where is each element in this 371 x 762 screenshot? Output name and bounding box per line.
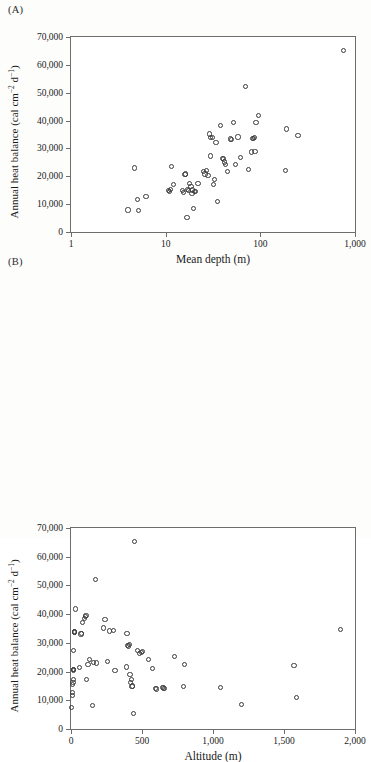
data-point — [131, 711, 136, 716]
data-point — [143, 194, 148, 199]
data-point — [235, 134, 240, 139]
y-axis-tick — [66, 557, 71, 558]
data-point — [94, 660, 99, 665]
y-axis-tick — [66, 204, 71, 205]
y-axis-tick — [66, 643, 71, 644]
y-axis-tick — [66, 585, 71, 586]
data-point — [136, 208, 141, 213]
data-point — [124, 664, 129, 669]
x-axis-tick — [355, 729, 356, 734]
plot-area-b: 010,00020,00030,00040,00050,00060,00070,… — [71, 528, 355, 729]
y-axis-tick-label: 10,000 — [37, 695, 63, 705]
x-axis-tick — [260, 232, 261, 237]
data-point — [90, 703, 95, 708]
y-axis-tick-label: 60,000 — [37, 60, 63, 70]
y-axis-title-a-text: Annual heat balance (cal cm−2 d−1) — [8, 65, 20, 218]
data-point — [102, 617, 107, 622]
data-point — [146, 657, 151, 662]
y-axis-tick-label: 50,000 — [37, 88, 63, 98]
y-axis-tick — [66, 65, 71, 66]
y-axis-tick-label: 0 — [58, 227, 63, 237]
data-point — [184, 215, 189, 220]
data-point — [150, 666, 155, 671]
x-axis-tick-label: 1,000 — [202, 736, 223, 746]
y-axis-tick — [66, 37, 71, 38]
y-axis-tick-label: 70,000 — [37, 32, 63, 42]
x-axis-tick-label: 500 — [135, 736, 149, 746]
data-point — [182, 662, 187, 667]
data-point — [205, 173, 210, 178]
data-point — [112, 668, 117, 673]
y-axis-tick-label: 20,000 — [37, 171, 63, 181]
data-point — [172, 654, 177, 659]
data-point — [124, 631, 129, 636]
data-point — [183, 171, 188, 176]
panel-a: (A) 010,00020,00030,00040,00050,00060,00… — [0, 0, 371, 270]
data-point — [225, 169, 230, 174]
data-point — [181, 684, 186, 689]
x-axis-title-b: Altitude (m) — [71, 750, 355, 762]
data-point — [84, 677, 89, 682]
data-point — [233, 162, 238, 167]
panel-b-label: (B) — [8, 256, 23, 267]
y-axis-tick — [66, 121, 71, 122]
x-axis-tick-label: 2,000 — [344, 736, 365, 746]
data-point — [101, 625, 106, 630]
y-axis-tick-label: 40,000 — [37, 116, 63, 126]
data-point — [193, 189, 198, 194]
data-point — [252, 135, 257, 140]
x-axis-tick-label: 100 — [253, 239, 267, 249]
data-point — [341, 48, 346, 53]
data-point — [111, 628, 116, 633]
x-axis-tick — [71, 232, 72, 237]
x-axis-tick-label: 1,500 — [273, 736, 294, 746]
data-point — [215, 199, 220, 204]
data-point — [169, 164, 174, 169]
x-axis-tick-label: 1 — [69, 239, 74, 249]
y-axis-tick-label: 70,000 — [37, 523, 63, 533]
y-axis-tick — [66, 176, 71, 177]
y-axis-tick-label: 30,000 — [37, 143, 63, 153]
data-point — [246, 167, 251, 172]
y-axis-title-b: Annual heat balance (cal cm−2 d−1) — [6, 530, 20, 740]
data-point — [132, 539, 137, 544]
x-axis-tick — [142, 729, 143, 734]
data-point — [132, 165, 137, 170]
x-axis-tick — [166, 232, 167, 237]
data-point — [71, 648, 76, 653]
y-axis-tick-label: 60,000 — [37, 552, 63, 562]
data-point — [79, 631, 84, 636]
data-point — [291, 663, 296, 668]
data-point — [211, 182, 216, 187]
x-axis-tick-label: 10 — [161, 239, 171, 249]
x-axis-tick-label: 1,000 — [344, 239, 365, 249]
y-axis-tick-label: 20,000 — [37, 667, 63, 677]
y-axis-tick-label: 10,000 — [37, 199, 63, 209]
y-axis-title-a: Annual heat balance (cal cm−2 d−1) — [6, 36, 20, 246]
y-axis-tick-label: 30,000 — [37, 638, 63, 648]
panel-b: (B) 010,00020,00030,00040,00050,00060,00… — [0, 250, 371, 538]
data-point — [218, 685, 223, 690]
x-axis-tick-label: 0 — [69, 736, 74, 746]
data-point — [239, 702, 244, 707]
data-point — [69, 705, 74, 710]
plot-frame-b: 010,00020,00030,00040,00050,00060,00070,… — [70, 527, 356, 730]
data-point — [71, 677, 76, 682]
data-point — [283, 168, 288, 173]
data-point — [238, 155, 243, 160]
data-point — [191, 206, 196, 211]
data-point — [140, 649, 145, 654]
data-point — [294, 695, 299, 700]
panel-a-label: (A) — [8, 4, 23, 15]
data-point — [71, 667, 76, 672]
data-point — [83, 613, 88, 618]
y-axis-tick — [66, 700, 71, 701]
data-point — [85, 662, 90, 667]
plot-frame-a: 010,00020,00030,00040,00050,00060,00070,… — [70, 36, 356, 233]
data-point — [73, 606, 78, 611]
y-axis-tick — [66, 672, 71, 673]
y-axis-tick-label: 50,000 — [37, 580, 63, 590]
data-point — [80, 620, 85, 625]
data-point — [218, 123, 223, 128]
data-point — [243, 84, 248, 89]
